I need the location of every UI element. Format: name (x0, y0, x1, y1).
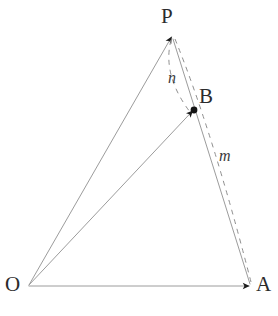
dashed-segment-m (175, 39, 251, 282)
segment-OP-vector (29, 37, 172, 285)
point-label-P: P (161, 6, 173, 27)
point-label-O: O (5, 274, 20, 295)
diagram-canvas (0, 0, 278, 316)
point-label-B: B (199, 86, 213, 107)
ratio-label-n: n (168, 70, 176, 86)
solid-line-group (29, 37, 250, 286)
segment-PA (173, 39, 250, 284)
vector-diagram-figure: P B O A n m (0, 0, 278, 316)
ratio-label-m: m (219, 148, 231, 164)
segment-OB-vector (29, 111, 193, 285)
point-B-marker (191, 107, 198, 114)
dashed-line-group (169, 39, 251, 282)
point-label-A: A (256, 274, 271, 295)
